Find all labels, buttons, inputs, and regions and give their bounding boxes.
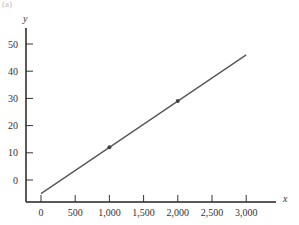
y-tick-label: 50 [8,39,18,50]
x-tick-label: 3,000 [235,207,258,218]
y-tick-label: 0 [13,175,18,186]
y-axis-label: y [22,13,28,24]
y-tick-label: 20 [8,120,18,131]
x-tick-label: 500 [68,207,83,218]
x-tick-label: 2,500 [201,207,224,218]
x-tick-label: 0 [39,207,44,218]
y-ticks: 01020304050 [8,39,33,186]
data-line [41,55,246,194]
x-tick-label: 2,000 [167,207,190,218]
x-tick-label: 1,500 [132,207,155,218]
line-chart: (a) y x 01020304050 05001,0001,5002,0002… [0,0,299,225]
x-axis-label: x [282,193,288,204]
panel-label: (a) [2,0,12,9]
y-tick-label: 40 [8,66,18,77]
data-point [176,99,180,103]
data-point [107,145,111,149]
y-tick-label: 10 [8,147,18,158]
x-ticks: 05001,0001,5002,0002,5003,000 [39,195,258,218]
y-tick-label: 30 [8,93,18,104]
x-tick-label: 1,000 [98,207,121,218]
